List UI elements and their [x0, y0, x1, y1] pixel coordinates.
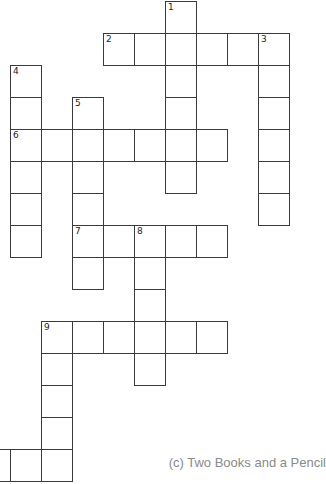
crossword-cell[interactable]: 2	[103, 33, 135, 66]
crossword-cell[interactable]: 7	[72, 225, 104, 258]
crossword-cell[interactable]	[258, 65, 290, 98]
crossword-cell[interactable]	[196, 225, 228, 258]
crossword-cell[interactable]	[165, 65, 197, 98]
crossword-cell[interactable]	[196, 321, 228, 354]
crossword-cell[interactable]	[258, 129, 290, 162]
crossword-cell[interactable]	[227, 33, 259, 66]
clue-number: 3	[261, 34, 267, 45]
crossword-cell[interactable]	[196, 33, 228, 66]
crossword-cell[interactable]	[134, 353, 166, 386]
crossword-cell[interactable]	[134, 321, 166, 354]
crossword-grid: 123465789	[0, 0, 326, 484]
crossword-cell[interactable]	[10, 97, 42, 130]
crossword-cell[interactable]	[134, 257, 166, 290]
crossword-cell[interactable]	[134, 289, 166, 322]
crossword-cell[interactable]	[165, 33, 197, 66]
crossword-cell[interactable]: 1	[165, 1, 197, 34]
crossword-cell[interactable]	[258, 161, 290, 194]
crossword-cell[interactable]	[41, 449, 73, 482]
crossword-cell[interactable]	[196, 129, 228, 162]
crossword-cell[interactable]	[72, 257, 104, 290]
crossword-cell[interactable]	[258, 97, 290, 130]
crossword-cell[interactable]	[10, 161, 42, 194]
crossword-cell[interactable]	[258, 193, 290, 226]
crossword-cell[interactable]	[10, 225, 42, 258]
crossword-cell[interactable]	[72, 129, 104, 162]
crossword-cell[interactable]: 9	[41, 321, 73, 354]
copyright-credit: (c) Two Books and a Pencil	[169, 455, 326, 470]
crossword-cell[interactable]: 3	[258, 33, 290, 66]
crossword-cell[interactable]	[103, 129, 135, 162]
crossword-cell[interactable]: 5	[72, 97, 104, 130]
clue-number: 1	[168, 2, 174, 13]
crossword-cell[interactable]	[72, 321, 104, 354]
crossword-cell[interactable]	[103, 225, 135, 258]
clue-number: 9	[44, 322, 50, 333]
clue-number: 2	[106, 34, 112, 45]
clue-number: 5	[75, 98, 81, 109]
crossword-cell[interactable]	[165, 225, 197, 258]
crossword-cell[interactable]	[134, 129, 166, 162]
crossword-cell[interactable]	[41, 385, 73, 418]
crossword-cell[interactable]: 8	[134, 225, 166, 258]
crossword-cell[interactable]: 6	[10, 129, 42, 162]
crossword-cell[interactable]	[41, 417, 73, 450]
crossword-cell[interactable]	[165, 97, 197, 130]
crossword-cell[interactable]	[41, 129, 73, 162]
crossword-cell[interactable]	[41, 353, 73, 386]
clue-number: 7	[75, 226, 81, 237]
crossword-cell[interactable]	[10, 193, 42, 226]
clue-number: 8	[137, 226, 143, 237]
clue-number: 4	[13, 66, 19, 77]
crossword-cell[interactable]	[165, 321, 197, 354]
crossword-cell[interactable]	[165, 129, 197, 162]
crossword-cell[interactable]	[72, 161, 104, 194]
crossword-cell[interactable]	[10, 449, 42, 482]
clue-number: 6	[13, 130, 19, 141]
crossword-cell[interactable]	[103, 321, 135, 354]
crossword-cell[interactable]	[72, 193, 104, 226]
crossword-cell[interactable]	[134, 33, 166, 66]
crossword-cell[interactable]	[165, 161, 197, 194]
crossword-cell[interactable]: 4	[10, 65, 42, 98]
